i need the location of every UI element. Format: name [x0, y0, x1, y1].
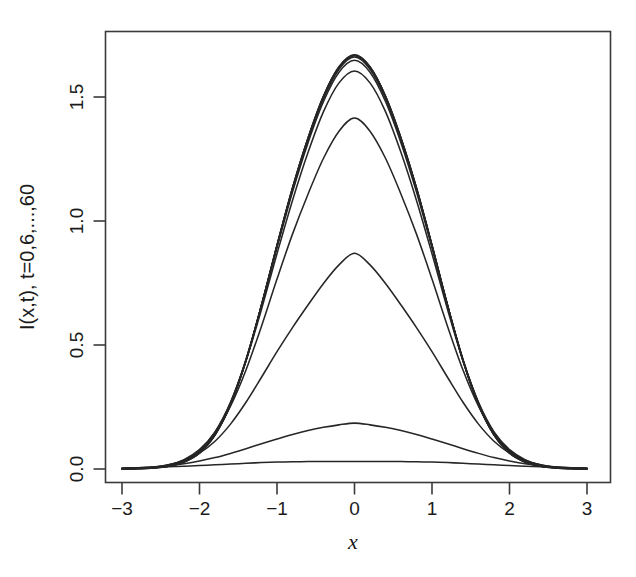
x-axis-tick-label: −1 — [266, 498, 288, 519]
chart-plot: −3−2−10123 0.00.51.01.5 x I(x,t), t=0,6,… — [0, 0, 636, 577]
y-axis: 0.00.51.01.5 — [66, 84, 106, 482]
y-axis-tick-label: 1.5 — [66, 84, 87, 110]
x-axis-tick-label: 0 — [349, 498, 360, 519]
x-axis-tick-label: 2 — [504, 498, 515, 519]
data-curve — [122, 253, 587, 468]
data-curve — [122, 118, 587, 469]
y-axis-tick-label: 0.0 — [66, 456, 87, 482]
x-axis-title: x — [347, 529, 358, 554]
x-axis-tick-label: −2 — [189, 498, 211, 519]
y-axis-tick-label: 1.0 — [66, 208, 87, 234]
x-axis: −3−2−10123 — [111, 483, 592, 520]
data-curves-group — [122, 55, 587, 469]
x-axis-tick-label: −3 — [111, 498, 133, 519]
data-curve — [122, 55, 587, 469]
data-curve — [122, 71, 587, 469]
figure-container: −3−2−10123 0.00.51.01.5 x I(x,t), t=0,6,… — [0, 0, 636, 577]
y-axis-tick-label: 0.5 — [66, 332, 87, 358]
plot-frame — [106, 32, 611, 483]
y-axis-title: I(x,t), t=0,6,...,60 — [16, 184, 38, 330]
x-axis-tick-label: 3 — [582, 498, 593, 519]
x-axis-tick-label: 1 — [427, 498, 438, 519]
data-curve — [122, 55, 587, 469]
data-curve — [122, 60, 587, 468]
